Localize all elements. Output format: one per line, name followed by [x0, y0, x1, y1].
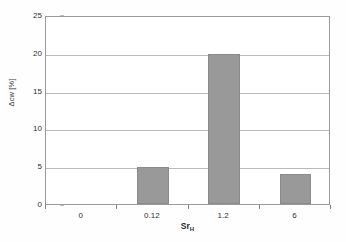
- x-tick-mark: [259, 205, 260, 209]
- x-tick-mark: [330, 205, 331, 209]
- y-tick-label: 0: [18, 201, 42, 209]
- x-tick-mark: [116, 205, 117, 209]
- plot-area: [45, 16, 330, 205]
- y-tick-label: 10: [18, 125, 42, 133]
- x-axis-label-subscript: H: [190, 226, 194, 232]
- x-axis-label-text: Sr: [181, 221, 190, 231]
- y-tick-label: 15: [18, 88, 42, 96]
- x-tick-mark: [45, 205, 46, 209]
- x-tick-label: 0: [58, 212, 104, 220]
- bar: [137, 167, 168, 204]
- bar-series: [46, 17, 329, 204]
- x-tick-label: 1.2: [200, 212, 246, 220]
- x-tick-label: 6: [271, 212, 317, 220]
- y-tick-label: 5: [18, 163, 42, 171]
- x-tick-mark: [188, 205, 189, 209]
- y-axis-label: Δcw [%]: [7, 58, 16, 128]
- bar: [208, 54, 239, 204]
- bar-chart-figure: Δcw [%] 0510152025 00.121.26 SrH: [0, 0, 346, 242]
- x-tick-label: 0.12: [129, 212, 175, 220]
- bar: [280, 174, 311, 204]
- y-tick-label: 20: [18, 50, 42, 58]
- y-axis-tick-labels: 0510152025: [18, 16, 42, 205]
- x-axis-label: SrH: [45, 222, 330, 231]
- y-tick-label: 25: [18, 12, 42, 20]
